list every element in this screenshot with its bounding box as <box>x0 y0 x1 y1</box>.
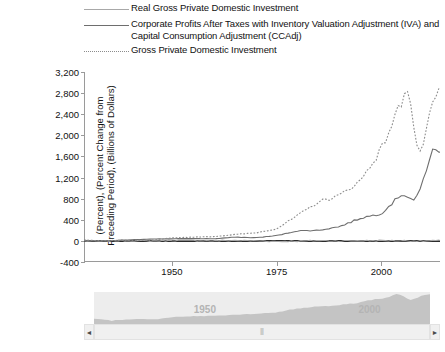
scrollbar-grip-icon: ⦀ <box>260 327 265 338</box>
y-tick-label: 800 <box>63 193 79 204</box>
range-scrollbar-thumb[interactable]: ⦀ <box>94 324 430 340</box>
range-overview-year-1950: 1950 <box>194 304 216 315</box>
range-overview-year-2000: 2000 <box>358 304 380 315</box>
x-tick-label: 2000 <box>371 266 392 277</box>
legend-item-real-gross-private-domestic-investment[interactable]: Real Gross Private Domestic Investment <box>84 2 440 15</box>
range-overview[interactable]: 1950 2000 <box>94 292 430 324</box>
y-tick-label: 400 <box>63 214 79 225</box>
legend-item-gross-private-domestic-investment[interactable]: Gross Private Domestic Investment <box>84 44 440 57</box>
chart-legend: Real Gross Private Domestic Investment C… <box>84 2 440 60</box>
legend-label: Real Gross Private Domestic Investment <box>131 2 298 14</box>
chart-screenshot: Real Gross Private Domestic Investment C… <box>0 0 445 352</box>
y-tick-label: 2,400 <box>55 109 79 120</box>
y-tick-mark <box>81 262 85 263</box>
legend-swatch-solid-dark-icon <box>84 20 131 31</box>
y-tick-label: 2,800 <box>55 88 79 99</box>
series-lines <box>84 72 440 262</box>
range-selector[interactable]: 1950 2000 ⦀ ◄ ► <box>84 292 440 340</box>
series-line <box>84 240 440 242</box>
legend-label: Gross Private Domestic Investment <box>131 44 277 56</box>
triangle-left-icon: ◄ <box>86 329 93 336</box>
scroll-right-button[interactable]: ► <box>430 324 440 340</box>
y-tick-label: 2,000 <box>55 130 79 141</box>
y-tick-label: 1,200 <box>55 172 79 183</box>
legend-swatch-solid-light-icon <box>84 4 131 15</box>
plot-area: (Percent), (Percent Change from Precedin… <box>84 72 440 262</box>
legend-swatch-dotted-icon <box>84 46 131 57</box>
x-tick-label: 1975 <box>266 266 287 277</box>
scroll-left-button[interactable]: ◄ <box>84 324 94 340</box>
series-line <box>84 149 440 241</box>
series-line <box>84 88 440 241</box>
legend-label: Corporate Profits After Taxes with Inven… <box>131 18 440 41</box>
y-tick-label: 1,600 <box>55 151 79 162</box>
y-tick-label: 3,200 <box>55 67 79 78</box>
legend-item-corporate-profits[interactable]: Corporate Profits After Taxes with Inven… <box>84 18 440 41</box>
y-tick-label: -400 <box>60 257 79 268</box>
y-tick-label: 0 <box>74 235 79 246</box>
x-tick-label: 1950 <box>161 266 182 277</box>
triangle-right-icon: ► <box>432 329 439 336</box>
